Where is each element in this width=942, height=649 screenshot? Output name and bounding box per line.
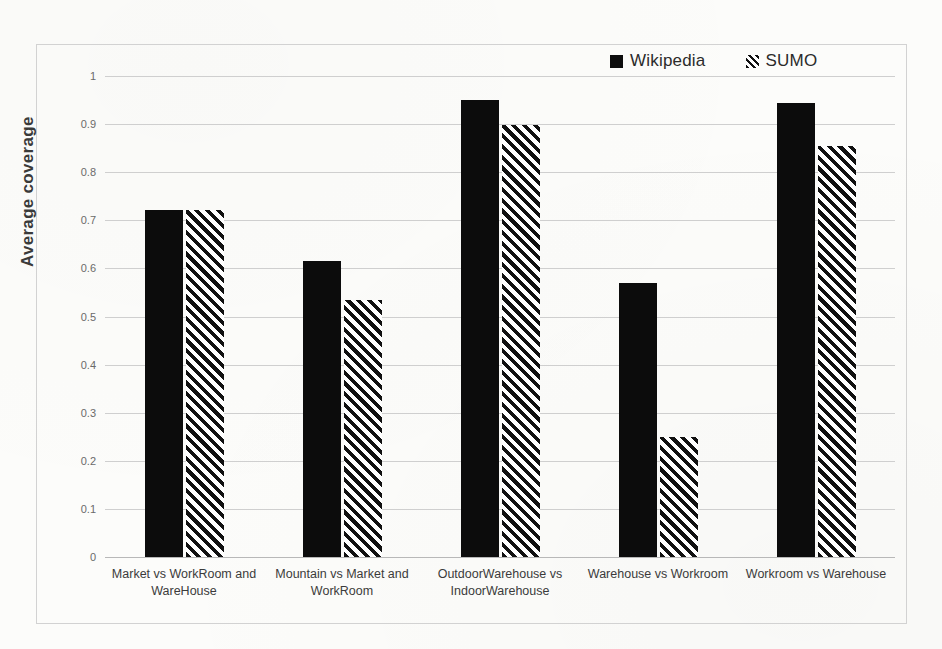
y-axis-tick-label: 0.2 (81, 455, 96, 467)
x-axis-category-label: Mountain vs Market andWorkRoom (263, 566, 421, 600)
bar-wikipedia[interactable] (619, 283, 657, 557)
y-axis-tick-label: 0.5 (81, 311, 96, 323)
y-axis-tick-label: 1 (90, 70, 96, 82)
x-axis-category-label: Market vs WorkRoom andWareHouse (105, 566, 263, 600)
bar-sumo[interactable] (660, 437, 698, 557)
x-axis-category-label: Warehouse vs Workroom (579, 566, 737, 600)
bar-sumo[interactable] (502, 125, 540, 557)
bar-group (421, 76, 579, 557)
x-axis-category-label: OutdoorWarehouse vsIndoorWarehouse (421, 566, 579, 600)
y-axis-tick-label: 0.9 (81, 118, 96, 130)
bar-group (105, 76, 263, 557)
bar-group (579, 76, 737, 557)
bar-group (263, 76, 421, 557)
y-axis-title: Average coverage (18, 67, 38, 267)
y-axis-tick-label: 0.4 (81, 359, 96, 371)
y-axis-tick-label: 0.1 (81, 503, 96, 515)
solid-square-icon (610, 55, 623, 68)
bar-wikipedia[interactable] (303, 261, 341, 557)
bar-sumo[interactable] (818, 146, 856, 557)
y-axis-tick-label: 0.7 (81, 214, 96, 226)
bar-group (737, 76, 895, 557)
legend-item-wikipedia[interactable]: Wikipedia (610, 51, 706, 71)
hatched-square-icon (746, 55, 759, 68)
gridline: 0 (105, 557, 895, 558)
x-axis-labels: Market vs WorkRoom andWareHouseMountain … (105, 566, 895, 600)
legend-item-sumo[interactable]: SUMO (746, 51, 818, 71)
bar-wikipedia[interactable] (145, 210, 183, 557)
y-axis-tick-label: 0 (90, 551, 96, 563)
y-axis-tick-label: 0.6 (81, 262, 96, 274)
x-axis-category-label: Workroom vs Warehouse (737, 566, 895, 600)
y-axis-tick-label: 0.3 (81, 407, 96, 419)
bar-sumo[interactable] (186, 210, 224, 557)
y-axis-tick-label: 0.8 (81, 166, 96, 178)
legend-label-sumo: SUMO (766, 51, 818, 71)
bar-groups-container (105, 76, 895, 557)
bar-wikipedia[interactable] (461, 100, 499, 557)
bar-wikipedia[interactable] (777, 103, 815, 557)
legend-label-wikipedia: Wikipedia (630, 51, 706, 71)
chart-legend: Wikipedia SUMO (610, 44, 817, 78)
bar-sumo[interactable] (344, 300, 382, 557)
